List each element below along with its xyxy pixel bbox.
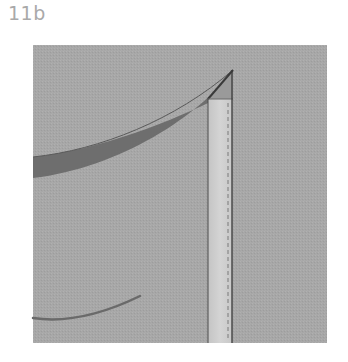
sewing-diagram [0, 0, 348, 362]
fabric-panel [33, 45, 327, 343]
